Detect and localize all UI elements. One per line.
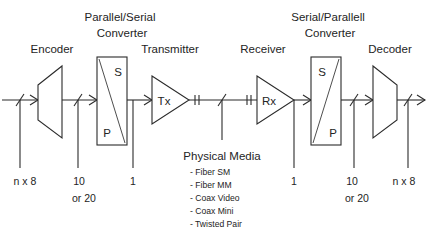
transmitter-label: Transmitter	[141, 43, 199, 55]
receiver-inner-label: Rx	[262, 95, 276, 107]
bus-width-encoder-out-alt: or 20	[72, 192, 96, 204]
bus-width-encoder-out: 10	[73, 175, 85, 187]
diagram-graphics: Parallel/Serial Converter Serial/Paralle…	[0, 0, 427, 234]
bus-width-output: n x 8	[393, 175, 416, 187]
physical-media-item-fiber-mm: - Fiber MM	[190, 180, 232, 190]
bus-width-serial-right: 1	[291, 175, 297, 187]
physical-media-item-twisted-pair: - Twisted Pair	[190, 219, 242, 229]
spconv-parallel-letter: P	[329, 127, 337, 139]
psconv-parallel-letter: P	[103, 127, 111, 139]
decoder-label: Decoder	[368, 43, 412, 55]
bus-width-decoder-in-alt: or 20	[345, 192, 369, 204]
bus-width-serial-left: 1	[130, 175, 136, 187]
physical-media-heading: Physical Media	[183, 150, 261, 162]
serial-parallel-heading-line2: Converter	[305, 27, 356, 39]
parallel-serial-heading-line2: Converter	[97, 27, 148, 39]
spconv-serial-letter: S	[318, 66, 326, 78]
transmitter-inner-label: Tx	[158, 95, 171, 107]
physical-media-item-coax-mini: - Coax Mini	[190, 206, 234, 216]
encoder-label: Encoder	[31, 43, 74, 55]
decoder-shape	[373, 66, 397, 138]
parallel-serial-heading-line1: Parallel/Serial	[85, 11, 156, 23]
physical-media-item-coax-video: - Coax Video	[190, 193, 240, 203]
bus-width-decoder-in: 10	[346, 175, 358, 187]
bus-width-input: n x 8	[14, 175, 37, 187]
serial-parallel-heading-line1: Serial/Parallell	[291, 11, 365, 23]
encoder-shape	[38, 66, 62, 138]
receiver-label: Receiver	[240, 43, 286, 55]
psconv-serial-letter: S	[114, 66, 122, 78]
physical-media-item-fiber-sm: - Fiber SM	[190, 167, 230, 177]
block-diagram-canvas: Parallel/Serial Converter Serial/Paralle…	[0, 0, 427, 234]
